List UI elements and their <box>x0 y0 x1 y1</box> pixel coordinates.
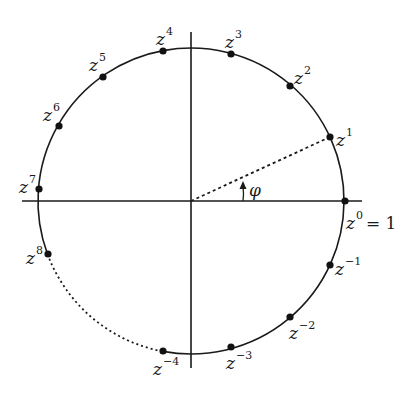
unit-circle-diagram: φ z0= 1z1z2z3z4z5z6z7z8z−4z−3z−2z−1 <box>0 0 412 402</box>
root-label-z8: z8 <box>25 244 43 268</box>
root-label-z2: z2 <box>293 64 311 88</box>
root-point-zm4 <box>159 347 166 354</box>
circle-dotted-arc <box>48 254 163 351</box>
root-labels: z0= 1z1z2z3z4z5z6z7z8z−4z−3z−2z−1 <box>18 25 396 379</box>
root-point-zm3 <box>227 343 234 350</box>
root-point-z1 <box>326 133 333 140</box>
root-point-z5 <box>99 73 106 80</box>
root-label-z6: z6 <box>42 101 60 125</box>
root-label-z7: z7 <box>18 173 36 197</box>
root-label-zm2: z−2 <box>288 319 315 343</box>
root-point-zm2 <box>286 313 293 320</box>
phi-label: φ <box>249 180 261 200</box>
root-point-z0 <box>341 197 348 204</box>
root-label-zm1: z−1 <box>334 255 361 279</box>
root-label-z3: z3 <box>224 28 242 52</box>
root-label-z5: z5 <box>88 51 106 75</box>
root-point-z2 <box>286 82 293 89</box>
root-point-z6 <box>55 122 62 129</box>
angle-phi: φ <box>240 180 262 201</box>
root-label-z1: z1 <box>335 126 353 150</box>
root-label-zm3: z−3 <box>225 349 252 373</box>
arrowhead-icon <box>240 181 247 189</box>
root-point-z8 <box>44 250 51 257</box>
root-point-z7 <box>35 185 42 192</box>
root-label-z4: z4 <box>155 25 173 49</box>
root-label-zm4: z−4 <box>152 355 179 379</box>
root-label-z0: z0= 1 <box>345 209 396 233</box>
root-point-zm1 <box>326 261 333 268</box>
